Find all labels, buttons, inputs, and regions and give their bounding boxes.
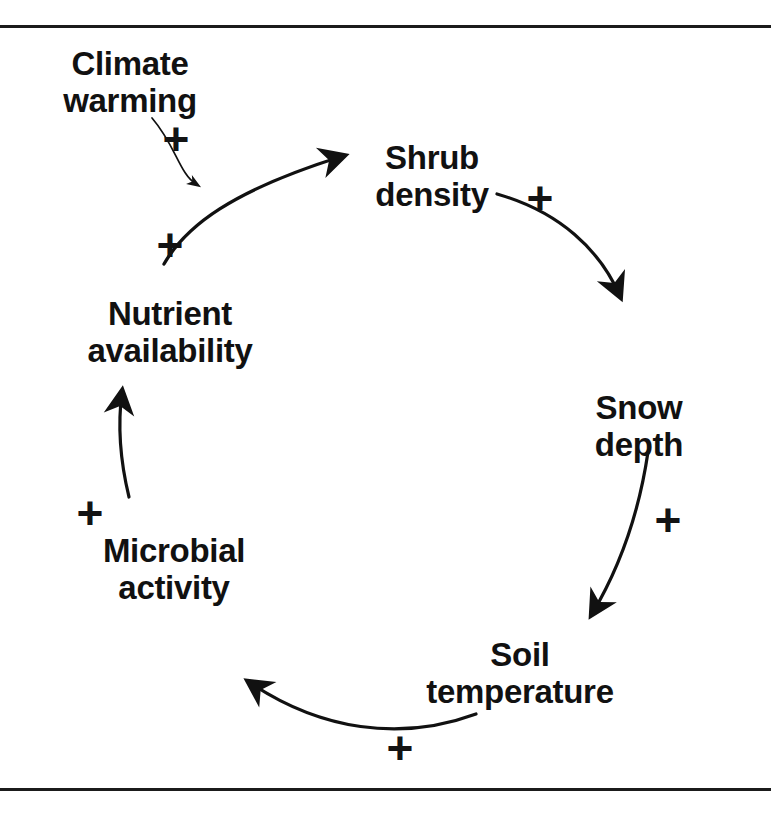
node-line-climate-warming-1: Climate	[71, 45, 188, 82]
node-line-snow-depth-2: depth	[595, 426, 683, 463]
node-line-nutrient-availability-1: Nutrient	[108, 295, 232, 332]
polarity-sign-snow-to-soil: +	[646, 497, 690, 543]
node-line-soil-temperature-1: Soil	[490, 636, 549, 673]
node-line-snow-depth-1: Snow	[596, 389, 683, 426]
link-microbial-to-nutrient	[120, 392, 129, 497]
node-label-climate-warming: Climatewarming	[55, 46, 205, 120]
node-line-microbial-activity-2: activity	[118, 569, 229, 606]
figure-root: Climatewarming Shrubdensity Snowdepth So…	[0, 0, 771, 818]
node-line-soil-temperature-2: temperature	[426, 673, 613, 710]
node-label-nutrient-availability: Nutrientavailability	[72, 296, 268, 370]
polarity-sign-nutrient-to-shrub: +	[148, 222, 192, 268]
polarity-sign-microbial-to-nutrient: +	[68, 490, 112, 536]
node-line-shrub-density-1: Shrub	[385, 139, 479, 176]
node-label-shrub-density: Shrubdensity	[362, 140, 502, 214]
polarity-sign-shrub-to-snow: +	[518, 175, 562, 221]
node-line-shrub-density-2: density	[375, 176, 488, 213]
node-line-nutrient-availability-2: availability	[87, 332, 252, 369]
polarity-sign-climate-to-shrub: +	[154, 116, 198, 162]
node-label-soil-temperature: Soiltemperature	[405, 637, 635, 711]
link-snow-to-soil	[592, 452, 648, 614]
node-line-microbial-activity-1: Microbial	[103, 532, 245, 569]
node-label-snow-depth: Snowdepth	[573, 390, 705, 464]
polarity-sign-soil-to-microbial: +	[378, 725, 422, 771]
node-label-microbial-activity: Microbialactivity	[83, 533, 265, 607]
